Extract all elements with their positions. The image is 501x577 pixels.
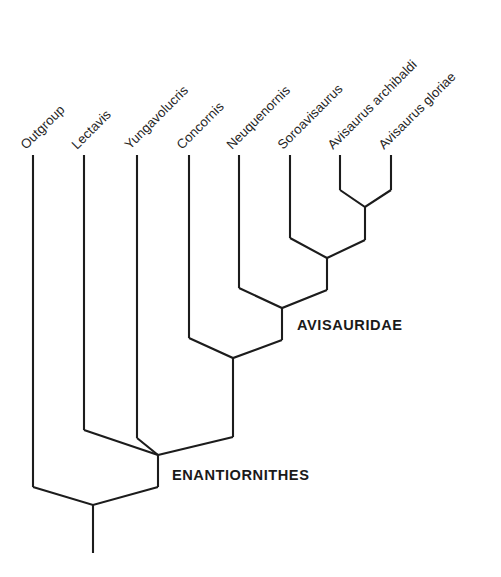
cladogram-svg: Outgroup Lectavis Yungavolucris Concorni… <box>0 0 501 577</box>
taxon-labels: Outgroup Lectavis Yungavolucris Concorni… <box>18 57 459 152</box>
node-root-join <box>33 487 158 505</box>
taxon-label-lectavis: Lectavis <box>69 107 115 153</box>
node-soroavisaurus-join <box>290 238 365 258</box>
node-enantiornithes-join-left <box>84 430 158 455</box>
taxon-label-concornis: Concornis <box>174 99 227 152</box>
taxon-label-outgroup: Outgroup <box>18 102 68 152</box>
clade-labels: AVISAURIDAE ENANTIORNITHES <box>172 317 403 483</box>
clade-label-avisauridae: AVISAURIDAE <box>297 317 403 333</box>
node-enantiornithes-join-right <box>158 437 233 455</box>
cladogram-figure: Outgroup Lectavis Yungavolucris Concorni… <box>0 0 501 577</box>
node-avisauridae-join <box>239 288 327 308</box>
node-avisaurus-join <box>340 190 391 207</box>
clade-label-enantiornithes: ENANTIORNITHES <box>172 467 309 483</box>
node-concornis-join <box>189 338 282 358</box>
taxon-label-avisaurus-archibaldi: Avisaurus archibaldi <box>325 57 420 152</box>
